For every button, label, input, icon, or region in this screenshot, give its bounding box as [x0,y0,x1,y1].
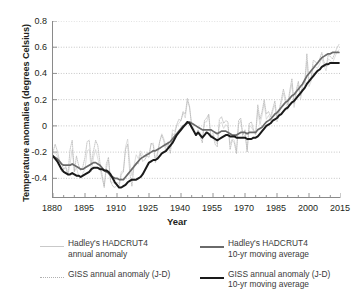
legend-item-giss-annual: GISS annual anomaly (J-D) [40,269,200,291]
y-axis-title: Temperature anomalies (degrees Celsius) [21,13,31,213]
series-line [53,52,339,179]
legend-label-line2: annual anomaly [68,249,127,259]
legend-label: GISS annual anomaly (J-D) [68,269,170,280]
x-axis-tick-label: 1910 [96,203,136,213]
x-axis-tick-label: 1955 [192,203,232,213]
y-axis-tick-label: -0.2 [15,147,47,157]
y-axis-tick-label: 0.8 [15,16,47,26]
legend-label-line1: Hadley's HADCRUT4 [228,238,308,248]
plot-svg [53,21,341,198]
x-axis-tick-label: 1985 [256,203,296,213]
data-series-layer [53,45,339,188]
gridlines [53,21,341,178]
x-axis-tick-label: 1880 [32,203,72,213]
legend-label: Hadley's HADCRUT4 10-yr moving average [228,238,309,260]
x-axis-tick-label: 1970 [224,203,264,213]
y-axis-tick-label: 0.6 [15,42,47,52]
y-axis-tick-label: 0.2 [15,95,47,105]
x-axis-title: Year [0,216,354,227]
legend-label: Hadley's HADCRUT4 annual anomaly [68,238,148,260]
legend-label-line1: Hadley's HADCRUT4 [68,238,148,248]
x-axis-tick-label: 1895 [64,203,104,213]
x-axis-minor-ticks [53,193,341,198]
x-axis-tick-label: 2000 [288,203,328,213]
legend-label: GISS annual anomaly (J-D) 10-yr moving a… [228,269,330,291]
legend-label-line1: GISS annual anomaly (J-D) [228,269,330,279]
series-line [53,50,339,186]
x-axis-tick-label: 1925 [128,203,168,213]
legend-label-line2: 10-yr moving average [228,279,309,289]
climate-anomaly-chart: Temperature anomalies (degrees Celsius) … [0,0,354,307]
y-axis-tick-label: 0 [15,121,47,131]
y-axis-tick-label: -0.4 [15,173,47,183]
legend-label-line1: GISS annual anomaly (J-D) [68,269,170,279]
series-line [53,45,339,188]
dotted-gray-line-icon [40,272,64,282]
y-axis-tick-label: 0.4 [15,68,47,78]
chart-legend: Hadley's HADCRUT4 annual anomaly Hadley'… [40,238,354,290]
x-axis-tick-label: 2015 [320,203,354,213]
plot-area [52,21,340,198]
legend-label-line2: 10-yr moving average [228,249,309,259]
x-axis-tick-label: 1940 [160,203,200,213]
thick-black-line-icon [200,272,224,282]
legend-item-hadley-annual: Hadley's HADCRUT4 annual anomaly [40,238,200,260]
thin-gray-line-icon [40,241,64,251]
legend-item-hadley-average: Hadley's HADCRUT4 10-yr moving average [200,238,309,260]
legend-item-giss-average: GISS annual anomaly (J-D) 10-yr moving a… [200,269,330,291]
thick-gray-line-icon [200,241,224,251]
